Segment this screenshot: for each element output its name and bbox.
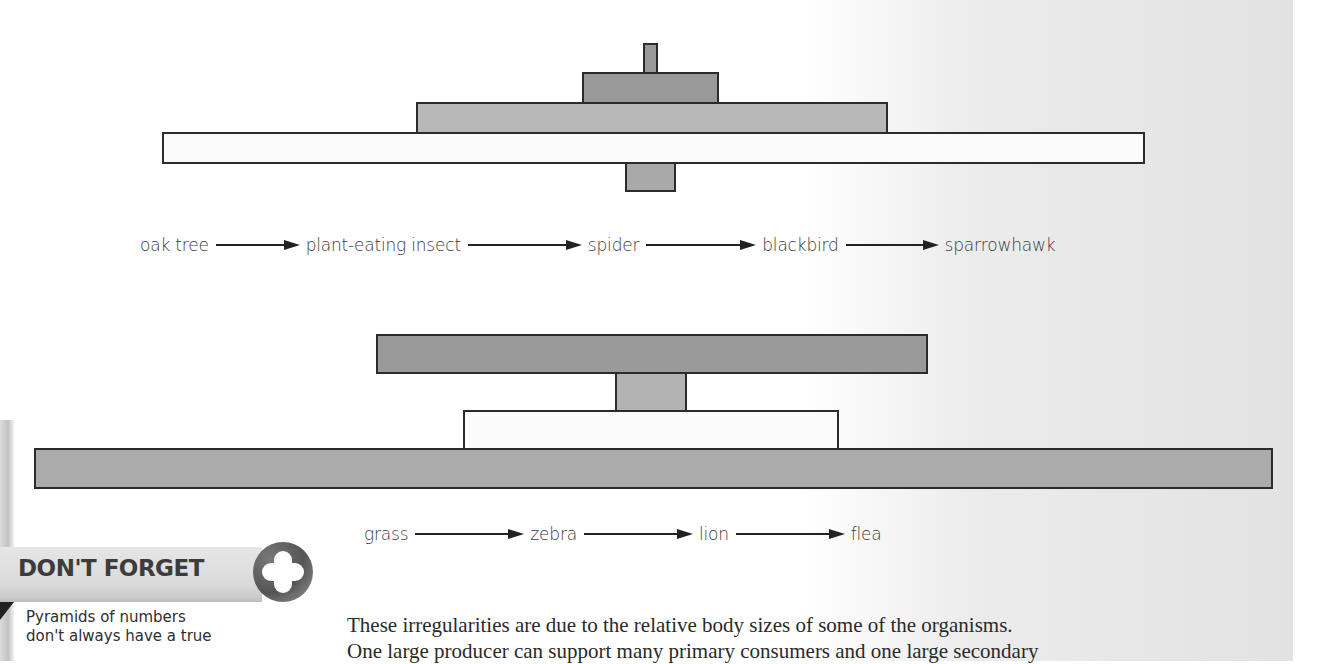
body-line: These irregularities are due to the rela…: [347, 612, 1038, 638]
body-paragraph: These irregularities are due to the rela…: [347, 612, 1038, 664]
pyramid-1-bar-spider: [582, 72, 719, 104]
pyramid-1-bar-sparrowhawk: [625, 162, 676, 192]
chain-1-item-plant-eating-insect: plant-eating insect: [306, 235, 461, 255]
corner-triangle: [0, 602, 14, 620]
plus-icon: [253, 542, 313, 602]
note-line: Pyramids of numbers: [26, 608, 212, 627]
chain-1-item-sparrowhawk: sparrowhawk: [945, 235, 1056, 255]
chain-2-item-flea: flea: [851, 524, 882, 544]
chain-2-item-grass: grass: [364, 524, 408, 544]
chain-1-item-spider: spider: [588, 235, 639, 255]
arrow-icon: [468, 240, 582, 250]
pyramid-2-bar-flea: [376, 334, 928, 374]
note-line: don't always have a true: [26, 627, 212, 646]
pyramid-2-bar-grass: [34, 448, 1273, 489]
chain-1-item-oak-tree: oak tree: [140, 235, 209, 255]
body-line: One large producer can support many prim…: [347, 638, 1038, 664]
dont-forget-note: Pyramids of numbers don't always have a …: [26, 608, 212, 646]
pyramid-1-bar-plant-eating-insect: [416, 102, 888, 134]
pyramid-1-bar-oak-tree: [162, 132, 1145, 164]
chain-2-item-zebra: zebra: [530, 524, 577, 544]
pyramid-2-bar-lion: [615, 372, 687, 412]
food-chain-2: grass zebra lion flea: [364, 524, 882, 544]
pyramid-2-bar-zebra: [463, 410, 839, 450]
margin-strip: [0, 420, 14, 661]
chain-1-item-blackbird: blackbird: [762, 235, 838, 255]
food-chain-1: oak tree plant-eating insect spider blac…: [140, 235, 1055, 255]
arrow-icon: [846, 240, 939, 250]
arrow-icon: [415, 529, 524, 539]
dont-forget-title: DON'T FORGET: [18, 555, 204, 581]
pyramid-1-bar-blackbird: [643, 43, 658, 74]
arrow-icon: [646, 240, 756, 250]
chain-2-item-lion: lion: [699, 524, 729, 544]
arrow-icon: [216, 240, 300, 250]
arrow-icon: [736, 529, 845, 539]
arrow-icon: [584, 529, 693, 539]
